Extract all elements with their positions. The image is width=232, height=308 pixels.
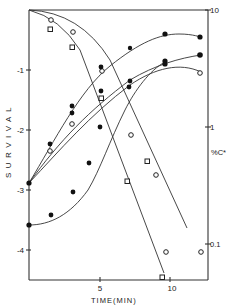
axes: [26, 10, 211, 282]
data-point: [129, 133, 134, 138]
y-tick-label: -3: [17, 186, 25, 195]
x-tick-label: 5: [98, 284, 103, 293]
y2-tick-label: 1: [210, 123, 215, 132]
data-point: [70, 111, 75, 116]
data-point: [100, 69, 105, 74]
data-point: [71, 30, 76, 35]
data-point: [162, 61, 167, 66]
data-point: [197, 52, 203, 58]
data-point: [70, 104, 75, 109]
data-point: [145, 159, 150, 164]
data-point: [70, 45, 75, 50]
data-point: [48, 142, 53, 147]
data-point: [197, 34, 202, 39]
data-point: [128, 79, 133, 84]
concentration-curves: [29, 34, 201, 225]
data-point: [48, 27, 53, 32]
y-tick-label: -1: [17, 66, 25, 75]
c-curve-c: [29, 67, 201, 183]
open-square-markers: [48, 27, 165, 280]
filled-circle-markers: [26, 31, 202, 227]
x-axis-title: TIME(MIN): [91, 296, 137, 305]
data-point: [127, 85, 132, 90]
survival-chart: -1 -2 -3 -4 5 10 10 1 0.1 TIME(MIN) SURV…: [0, 0, 232, 308]
survival-curves: [29, 10, 187, 273]
data-point: [98, 125, 103, 130]
y-tick-label: -4: [17, 246, 25, 255]
y-axis-title: SURVIVAL: [4, 103, 13, 178]
survival-curve-squares: [29, 10, 164, 273]
data-point: [198, 71, 203, 76]
data-point: [154, 173, 159, 178]
data-point: [162, 31, 167, 36]
data-point: [128, 46, 132, 50]
x-tick-label: 10: [168, 284, 177, 293]
data-point: [70, 122, 75, 127]
c-curve-a: [29, 34, 201, 183]
survival-curve-circles: [29, 10, 187, 228]
y2-tick-label: 10: [210, 6, 219, 15]
open-circle-markers: [48, 18, 204, 255]
data-point: [125, 179, 130, 184]
y-tick-label: -2: [17, 126, 25, 135]
data-point: [71, 190, 76, 195]
data-point: [199, 250, 204, 255]
chart-svg: -1 -2 -3 -4 5 10 10 1 0.1 TIME(MIN) SURV…: [0, 0, 232, 308]
data-point: [99, 96, 104, 101]
data-point: [26, 180, 31, 185]
c-curve-b: [29, 55, 201, 183]
y2-tick-label: 0.1: [210, 240, 220, 249]
data-point: [87, 161, 92, 166]
data-point: [48, 149, 53, 154]
y2-axis-title: %C*: [211, 148, 226, 157]
data-point: [49, 18, 54, 23]
data-point: [26, 222, 31, 227]
data-point: [164, 250, 169, 255]
data-point: [99, 65, 104, 70]
data-point: [49, 213, 54, 218]
data-point: [99, 89, 104, 94]
data-point: [160, 275, 165, 280]
